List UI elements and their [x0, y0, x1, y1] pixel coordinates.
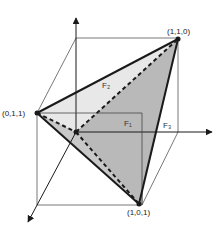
tetrahedron-diagram: (1,1,0) (0,1,1) (1,0,1) F₂ F₁ F₃: [0, 0, 223, 234]
vertex-label-110: (1,1,0): [167, 27, 190, 36]
x-axis: [28, 132, 76, 222]
face-label-f3: F₃: [163, 121, 171, 130]
vertex-label-011: (0,1,1): [2, 109, 25, 118]
tetrahedron-faces: [37, 39, 178, 204]
vertex-label-101: (1,0,1): [127, 208, 150, 217]
face-label-f2: F₂: [102, 81, 110, 90]
face-label-f1: F₁: [124, 119, 132, 128]
